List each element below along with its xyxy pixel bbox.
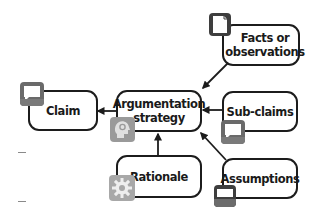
margin-dash	[18, 201, 26, 202]
arrow-facts-to-strategy	[203, 63, 228, 88]
speech-bubble-icon	[221, 120, 245, 144]
node-label: Sub-claims	[227, 105, 294, 119]
argument-diagram: Facts or observations Claim Argumentatio…	[0, 0, 316, 219]
node-label: Assumptions	[221, 172, 300, 186]
gear-icon	[109, 175, 135, 201]
node-facts-or-observations[interactable]: Facts or observations	[222, 24, 300, 66]
node-label: Claim	[46, 104, 80, 118]
head-gear-icon	[110, 117, 135, 142]
margin-dash	[18, 152, 26, 153]
speech-bubble-icon	[20, 82, 44, 106]
node-label: Rationale	[130, 170, 188, 184]
document-icon	[209, 13, 231, 36]
monitor-icon	[214, 185, 236, 207]
node-label: Facts or observations	[217, 31, 304, 59]
